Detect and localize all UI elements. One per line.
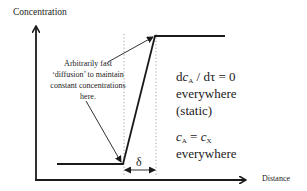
rate-equation-everywhere: everywhere bbox=[176, 86, 237, 101]
static-label: (static) bbox=[176, 103, 212, 118]
y-axis-label: Concentration bbox=[13, 7, 67, 17]
static-condition-text: dcA / dτ = 0 everywhere (static) cA = cX… bbox=[176, 69, 237, 161]
annotation-arrow-bottom bbox=[86, 101, 121, 162]
annotation-line-3: constant concentrations bbox=[50, 81, 125, 90]
annotation-arrow-top bbox=[108, 37, 153, 62]
annotation-line-2: ‘diffusion’ to maintain bbox=[52, 70, 124, 79]
annotation-line-1: Arbitrarily fast bbox=[64, 59, 113, 68]
diagram-canvas: Concentration Distance δ Arbitrarily fas… bbox=[0, 0, 307, 191]
rate-equation: dcA / dτ = 0 bbox=[176, 69, 236, 85]
annotation-text: Arbitrarily fast ‘diffusion’ to maintain… bbox=[50, 59, 125, 101]
x-axis-label: Distance bbox=[262, 174, 290, 183]
annotation-line-4: here. bbox=[80, 92, 96, 101]
delta-label: δ bbox=[136, 155, 142, 169]
concentration-equality-everywhere: everywhere bbox=[176, 146, 237, 161]
concentration-equality: cA = cX bbox=[176, 129, 212, 145]
